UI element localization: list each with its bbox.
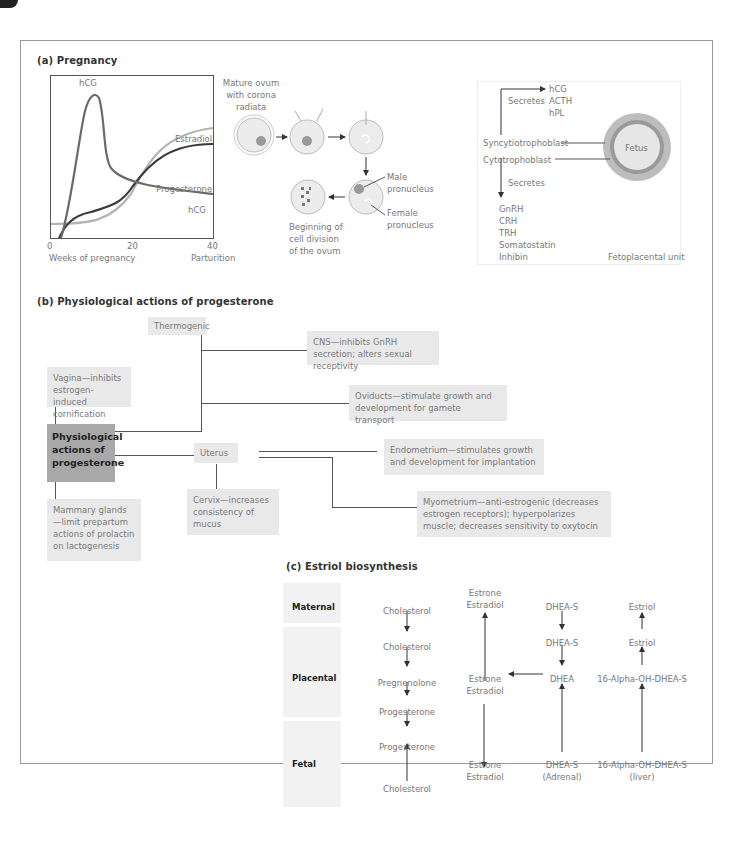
connector-cns — [201, 350, 307, 351]
vagina-box: Vagina—inhibits estrogen-induced cornifi… — [47, 367, 131, 407]
c3-dhea-s-placental: DHEA-S — [532, 637, 592, 649]
c2-estrone-estradiol-placental: Estrone Estradiol — [455, 673, 515, 697]
figure-frame: (a) Pregnancy hCG Estradiol Progesterone… — [20, 40, 713, 764]
x-axis-label: Weeks of pregnancy — [49, 252, 135, 264]
page-corner-mark — [0, 0, 18, 8]
myometrium-box: Myometrium—anti-estrogenic (decreases es… — [417, 491, 611, 537]
cns-box: CNS—inhibits GnRH secretion; alters sexu… — [307, 331, 439, 365]
hormone-hpl: hPL — [549, 107, 564, 119]
c2-estrone-estradiol-fetal: Estrone Estradiol — [455, 759, 515, 783]
connector-myometrium-c — [332, 507, 418, 508]
connector-endometrium — [259, 451, 377, 452]
chart-label-estradiol: Estradiol — [175, 133, 212, 145]
c3-dhea-s-adrenal: DHEA-S (Adrenal) — [532, 759, 592, 783]
male-pronucleus-label: Male pronucleus — [387, 171, 437, 195]
endometrium-box: Endometrium—stimulates growth and develo… — [384, 439, 544, 475]
connector-oviducts — [201, 403, 349, 404]
mammary-box: Mammary glands—limit prepartum actions o… — [47, 499, 141, 561]
oviducts-box: Oviducts—stimulate growth and developmen… — [349, 385, 507, 421]
c1-pregnenolone: Pregnenolone — [367, 677, 447, 689]
c4-16-alpha-oh-dhea-s-liver: 16-Alpha-OH-DHEA-S (liver) — [597, 759, 687, 783]
hormone-hcg: hCG — [549, 83, 567, 95]
c1-cholesterol-maternal: Cholesterol — [367, 605, 447, 617]
panel-c-title: (c) Estriol biosynthesis — [286, 561, 418, 572]
c1-cholesterol-fetal: Cholesterol — [367, 783, 447, 795]
c3-dhea: DHEA — [532, 673, 592, 685]
fetus-label: Fetus — [625, 142, 648, 154]
connector-myometrium-b — [332, 457, 333, 507]
secretes-top-label: Secretes — [508, 95, 545, 107]
connector-thermogenic-trunk — [201, 332, 202, 431]
connector-myometrium-a — [259, 457, 333, 458]
hormone-crh: CRH — [499, 215, 517, 227]
hormone-trh: TRH — [499, 227, 517, 239]
chart-label-hcg-end: hCG — [188, 204, 206, 216]
hormone-inhibin: Inhibin — [499, 251, 528, 263]
panel-b-title: (b) Physiological actions of progesteron… — [37, 296, 274, 307]
c4-16-alpha-oh-dhea-s: 16-Alpha-OH-DHEA-S — [597, 673, 687, 685]
x-tick-20: 20 — [127, 240, 138, 252]
chart-label-hcg-peak: hCG — [79, 77, 97, 89]
secretes-bottom-label: Secretes — [508, 177, 545, 189]
connector-mammary — [55, 482, 56, 500]
center-progesterone-box: Physiological actions of progesterone — [47, 424, 115, 482]
c3-dhea-s-maternal: DHEA-S — [532, 601, 592, 613]
cytotrophoblast-label: Cytotrophoblast — [483, 154, 551, 166]
hormone-somatostatin: Somatostatin — [499, 239, 556, 251]
c4-estriol-placental: Estriol — [597, 637, 687, 649]
c1-cholesterol-placental: Cholesterol — [367, 641, 447, 653]
cell-division-label: Beginning of cell division of the ovum — [289, 221, 344, 257]
hormone-acth: ACTH — [549, 95, 572, 107]
uterus-box: Uterus — [194, 443, 238, 463]
c1-progesterone-fetal: Progesterone — [367, 741, 447, 753]
syncytiotrophoblast-label: Syncytiotrophoblast — [483, 137, 568, 149]
panel-a-title: (a) Pregnancy — [37, 55, 117, 66]
hormone-gnrh: GnRH — [499, 203, 523, 215]
c1-progesterone-placental: Progesterone — [367, 706, 447, 718]
cervix-box: Cervix—increases consistency of mucus — [187, 489, 279, 535]
x-tick-40: 40 — [207, 240, 218, 252]
female-pronucleus-label: Female pronucleus — [387, 207, 439, 231]
parturition-label: Parturition — [191, 252, 235, 264]
fetoplacental-caption: Fetoplacental unit — [608, 251, 685, 263]
chart-label-progesterone: Progesterone — [156, 183, 212, 195]
c4-estriol-maternal: Estriol — [597, 601, 687, 613]
c2-estrone-estradiol-maternal: Estrone Estradiol — [455, 587, 515, 611]
thermogenic-box: Thermogenic — [148, 317, 206, 335]
x-tick-0: 0 — [47, 240, 52, 252]
